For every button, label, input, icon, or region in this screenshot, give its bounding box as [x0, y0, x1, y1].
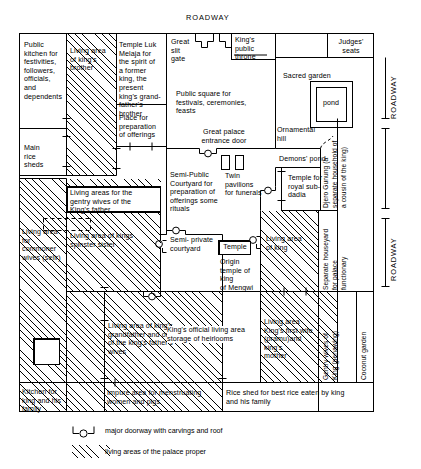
room-great-slit-gate: Great slit gate: [171, 38, 203, 64]
roadway-label-right-lower: ROADWAY: [390, 225, 399, 281]
room-kings-public-throne: King's public throne: [235, 36, 275, 62]
vlabel-djero-gunung-2: separate household of: [331, 120, 339, 208]
room-great-palace-entrance-door: Great palace entrance door: [177, 128, 271, 145]
hatch-commoner-wives: [20, 179, 66, 411]
room-living-gentry-wives-kings-father: Living areas for the gentry wives of the…: [70, 189, 162, 215]
room-living-area-of-king: Living area of king: [266, 235, 314, 252]
vlabel-coconut-garden: Coconut garden: [360, 296, 368, 380]
vlabel-separate-houseyard-1: Separate houseyard: [322, 214, 330, 290]
room-main-rice-sheds: Main rice sheds: [24, 144, 66, 170]
room-public-square: Public square for festivals, ceremonies,…: [176, 90, 272, 116]
room-impure-area: Impure area for menstruating women and p…: [107, 389, 225, 406]
vlabel-djero-gunung-3: a cousin of the king): [340, 120, 348, 208]
vlabel-separate-houseyard-3: functionary: [340, 214, 348, 290]
room-sacred-garden: Sacred garden: [283, 72, 363, 81]
legend: major doorway with carvings and roof liv…: [0, 418, 421, 469]
room-origin-temple-mengwi: Origin temple of king of Mengwi: [220, 258, 264, 292]
room-living-commoner-wives: Living area for commoner wives (selir): [22, 228, 68, 262]
room-place-for-offerings: Place for preparation of offerings: [119, 114, 167, 140]
roadway-label-right-upper: ROADWAY: [390, 63, 399, 119]
room-living-kings-spinster-sister: Living area of kings spinster sister: [70, 232, 162, 249]
vlabel-gentry-wives-1: Gentry wives of: [322, 296, 330, 380]
room-temple-royal-subdadia: Temple for royal sub- dadia: [288, 174, 324, 200]
legend-living-areas-label: living areas of the palace proper: [105, 448, 206, 456]
room-kitchen-king-family: Kitchen for king and his family: [22, 388, 68, 414]
room-semi-private-courtyard: Semi- private courtyard: [170, 236, 224, 253]
room-pond: pond: [317, 99, 345, 108]
room-twin-pavilions: Twin pavilions for funerals: [225, 172, 263, 198]
room-public-kitchen: Public kitchen for festivities, follower…: [24, 41, 66, 101]
room-temple-box-label: Temple: [220, 243, 250, 252]
palace-floor-plan: ROADWAY: [0, 0, 421, 469]
vlabel-djero-gunung-1: Djero Gunung (a: [322, 120, 330, 208]
room-temple-luk-melaja: Temple Luk Melaja for the spirit of a fo…: [119, 41, 167, 118]
room-judges-seats: Judges' seats: [330, 38, 372, 55]
kitchen-inner-square: [34, 339, 60, 365]
room-living-kings-brother: Living area of king's brother: [70, 47, 116, 73]
vlabel-gentry-wives-2: King (penawing): [331, 296, 339, 380]
room-living-kings-first-wife: Living area King's first wife (pramu)and…: [264, 318, 318, 361]
room-semi-public-courtyard: Semi-Public Courtyard for preparation of…: [170, 171, 224, 214]
vlabel-separate-houseyard-2: for palace: [331, 214, 339, 290]
room-ornamental-hill: Ornamental hill: [277, 126, 323, 143]
room-rice-shed-best-rice: Rice shed for best rice eaten by king an…: [226, 389, 356, 406]
room-kings-official-living-area: King's official living area storage of h…: [167, 326, 259, 343]
legend-doorway-label: major doorway with carvings and roof: [105, 427, 223, 435]
